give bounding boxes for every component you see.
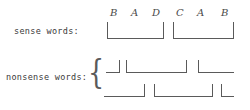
nonsense-r2-seg-3 [221,84,234,97]
letter-b-2: B [221,8,228,18]
sense-words-label: sense words: [14,26,79,36]
letter-a-1: A [131,8,138,18]
letter-b-1: B [110,8,117,18]
sense-bracket-1 [107,22,164,39]
nonsense-r1-seg-3 [198,60,234,73]
nonsense-r2-seg-2 [154,84,213,97]
letter-a-2: A [197,8,204,18]
sense-bracket-2 [173,22,234,39]
nonsense-r1-seg-1 [106,60,120,73]
segmentation-figure: B A D C A B sense words: nonsense words:… [0,0,250,110]
nonsense-r2-seg-1 [104,84,145,97]
letter-d-1: D [152,8,160,18]
letter-c-1: C [176,8,184,18]
nonsense-grouping-brace: { [88,54,104,88]
nonsense-words-label: nonsense words: [6,72,87,82]
nonsense-r1-seg-2 [126,60,187,73]
